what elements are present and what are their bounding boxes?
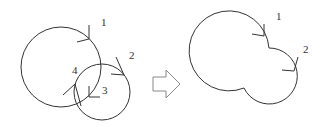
label-3: 3 [102, 84, 108, 96]
marker-3-icon [89, 86, 100, 97]
label-2: 2 [129, 49, 135, 61]
diagram-canvas: 1 2 3 4 1 2 [0, 0, 328, 127]
transform-arrow-icon [153, 70, 180, 98]
marker-1-icon [252, 24, 264, 36]
label-1: 1 [276, 10, 282, 22]
label-1: 1 [101, 16, 107, 28]
before-figure: 1 2 3 4 [21, 16, 135, 120]
marker-2-icon [282, 57, 298, 71]
label-4: 4 [72, 64, 78, 76]
merged-outline [189, 11, 297, 104]
label-2: 2 [303, 43, 309, 55]
after-figure: 1 2 [189, 10, 308, 104]
